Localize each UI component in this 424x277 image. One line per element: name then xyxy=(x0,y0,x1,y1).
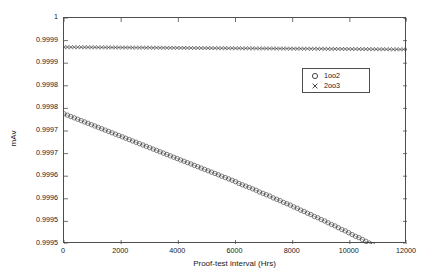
y-tick-label: 0.9996 xyxy=(36,171,58,179)
legend-item-1oo2: 1oo2 xyxy=(303,71,369,81)
y-axis-title: mAv xyxy=(2,0,26,277)
y-tick-label: 0.9995 xyxy=(36,239,58,247)
legend-item-2oo3: 2oo3 xyxy=(303,81,369,91)
chart-legend: 1oo2 2oo3 xyxy=(302,68,370,93)
plot-area xyxy=(63,17,406,243)
plot-canvas xyxy=(64,18,407,244)
legend-label-1oo2: 1oo2 xyxy=(324,71,340,81)
series-1oo2 xyxy=(64,18,407,244)
x-tick-label: 4000 xyxy=(169,246,185,255)
y-tick-label: 0.9997 xyxy=(36,126,58,134)
legend-label-2oo3: 2oo3 xyxy=(324,81,340,91)
x-axis-title: Proof-test interval (Hrs) xyxy=(63,259,406,268)
x-tick-label: 8000 xyxy=(284,246,300,255)
y-tick-label: 0.9999 xyxy=(36,36,58,44)
y-tick-label: 0.9995 xyxy=(36,216,58,224)
chart-figure: mAv 0.99950.99950.99960.99960.99970.9997… xyxy=(0,0,424,277)
series-2oo3 xyxy=(64,45,407,51)
x-tick-label: 6000 xyxy=(227,246,243,255)
y-tick-label: 0.9997 xyxy=(36,149,58,157)
x-tick-label: 12000 xyxy=(396,246,416,255)
x-tick-label: 0 xyxy=(61,246,65,255)
y-tick-label: 0.9999 xyxy=(36,58,58,66)
cross-marker-icon xyxy=(306,81,324,91)
y-tick-label: 0.9998 xyxy=(36,81,58,89)
circle-marker-icon xyxy=(306,71,324,81)
y-tick-label: 0.9996 xyxy=(36,194,58,202)
y-axis-title-text: mAv xyxy=(9,131,18,147)
y-tick-label: 1 xyxy=(54,13,58,21)
x-tick-label: 2000 xyxy=(112,246,128,255)
x-tick-label: 10000 xyxy=(339,246,359,255)
y-tick-label: 0.9998 xyxy=(36,103,58,111)
